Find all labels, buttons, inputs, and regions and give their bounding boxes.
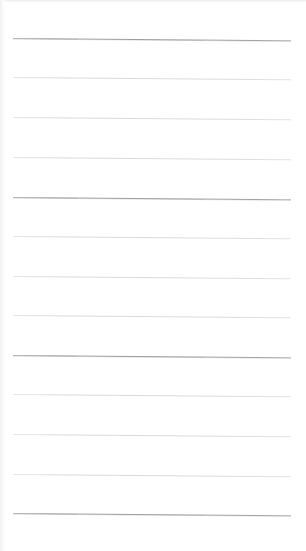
ruled-paper-page [0,0,306,551]
ruled-line-light [13,474,291,477]
ruled-line-heavy [13,513,291,516]
ruled-line-light [13,276,291,279]
ruled-line-light [13,117,291,120]
ruled-line-light [13,157,291,160]
page-left-edge-shadow [0,0,5,551]
ruled-line-light [13,77,291,80]
ruled-line-light [13,394,291,397]
ruled-line-heavy [13,197,291,200]
ruled-line-heavy [13,355,291,358]
ruled-line-heavy [13,38,291,41]
ruled-line-light [13,434,291,437]
page-top-edge-shadow [0,0,306,3]
ruled-line-light [13,236,291,239]
ruled-line-light [13,315,291,318]
